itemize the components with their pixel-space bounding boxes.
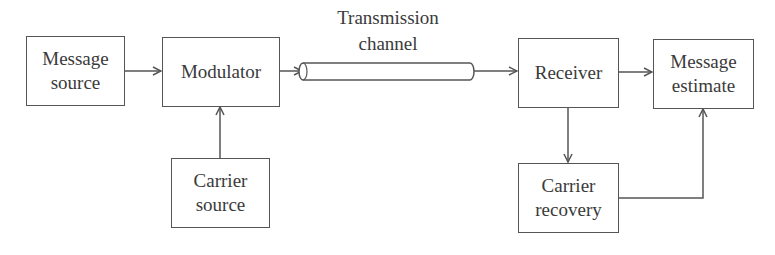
receiver-label: Receiver bbox=[535, 61, 603, 85]
channel-tube bbox=[299, 63, 474, 80]
channel-label: Transmission channel bbox=[300, 5, 476, 57]
message-source-block: Message source bbox=[26, 36, 125, 106]
channel-label-1: Transmission bbox=[300, 5, 476, 31]
arrow-recovery-to-estimate bbox=[618, 109, 703, 198]
carrier-recovery-label-2: recovery bbox=[535, 198, 601, 222]
carrier-source-label-2: source bbox=[194, 193, 248, 217]
receiver-block: Receiver bbox=[518, 38, 619, 108]
modulator-label: Modulator bbox=[181, 60, 261, 84]
modulator-block: Modulator bbox=[162, 37, 280, 107]
message-estimate-label-1: Message bbox=[670, 50, 736, 74]
carrier-source-block: Carrier source bbox=[171, 158, 270, 228]
message-estimate-block: Message estimate bbox=[653, 39, 754, 109]
carrier-source-label-1: Carrier bbox=[194, 169, 248, 193]
channel-label-2: channel bbox=[300, 31, 476, 57]
message-estimate-label-2: estimate bbox=[670, 74, 736, 98]
message-source-label-2: source bbox=[42, 71, 108, 95]
carrier-recovery-label-1: Carrier bbox=[535, 174, 601, 198]
carrier-recovery-block: Carrier recovery bbox=[518, 163, 619, 233]
message-source-label-1: Message bbox=[42, 47, 108, 71]
